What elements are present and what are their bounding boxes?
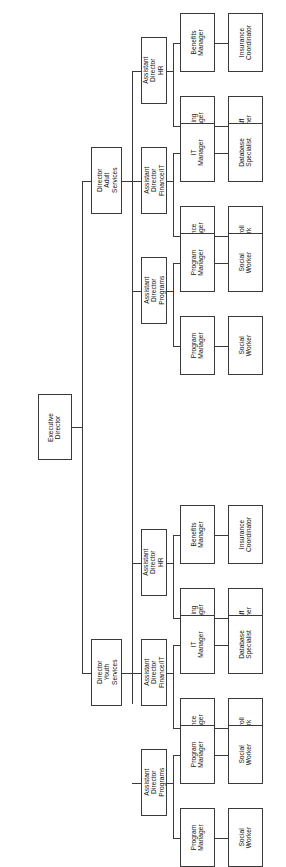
node-label: IT Manager	[190, 139, 205, 165]
node-youth-social-worker-2[interactable]: Social Worker	[228, 725, 263, 784]
connector-root-bus	[82, 181, 83, 674]
connector-adult-to-programs	[132, 291, 141, 292]
node-adult-assistant-director-programs[interactable]: Assistant Director Programs	[141, 257, 167, 324]
figure-caption	[271, 682, 285, 832]
node-label: Insurance Coordinator	[238, 25, 253, 60]
connector-youth-prog-to-pm2	[173, 755, 180, 756]
connector-youth-prog-bus	[173, 755, 174, 839]
connector-youth-it-to-dbspec	[215, 645, 228, 646]
connector-adult-pm1-to-sw1	[215, 346, 228, 347]
node-label: Director Adult Services	[95, 168, 117, 194]
node-youth-program-manager-1[interactable]: Program Manager	[180, 808, 215, 867]
connector-adult-to-finance	[132, 181, 141, 182]
node-label: Social Worker	[238, 335, 253, 356]
node-adult-social-worker-2[interactable]: Social Worker	[228, 233, 263, 292]
connector-youth-prog-to-pm1	[173, 838, 180, 839]
connector-youth-fin-to-it	[173, 645, 180, 646]
node-label: Program Manager	[190, 249, 205, 275]
node-adult-program-manager-1[interactable]: Program Manager	[180, 316, 215, 375]
node-director-youth-services[interactable]: Director Youth Services	[91, 639, 122, 706]
connector-youth-fin-to-finance	[173, 728, 180, 729]
node-label: Benefits Manager	[190, 521, 205, 547]
node-label: Social Worker	[238, 827, 253, 848]
node-youth-database-specialist[interactable]: Database Specialist	[228, 615, 263, 674]
node-adult-benefits-manager[interactable]: Benefits Manager	[180, 13, 215, 72]
connector-adult-prog-bus	[173, 263, 174, 347]
node-youth-program-manager-2[interactable]: Program Manager	[180, 725, 215, 784]
node-label: Social Worker	[238, 744, 253, 765]
node-label: Database Specialist	[238, 138, 253, 167]
connector-youth-finance-to-payroll	[215, 728, 228, 729]
node-youth-benefits-manager[interactable]: Benefits Manager	[180, 505, 215, 564]
connector-youth-training-to-trainer	[215, 618, 228, 619]
node-adult-program-manager-2[interactable]: Program Manager	[180, 233, 215, 292]
connector-youth-to-hr	[132, 563, 141, 564]
node-label: Assistant Director Programs	[143, 276, 165, 305]
node-label: Benefits Manager	[190, 29, 205, 55]
connector-adult-to-hr	[132, 71, 141, 72]
node-director-adult-services[interactable]: Director Adult Services	[91, 147, 122, 214]
connector-youth-to-finance	[132, 673, 141, 674]
connector-adult-fin-to-finance	[173, 236, 180, 237]
connector-adult-finance-to-payroll	[215, 236, 228, 237]
connector-adult-hr-to-benefits	[173, 43, 180, 44]
node-label: Executive Director	[48, 412, 63, 441]
connector-root-to-adult	[82, 181, 91, 182]
connector-adult-pm2-to-sw2	[215, 263, 228, 264]
connector-youth-benefits-to-insurance	[215, 535, 228, 536]
connector-adult-training-to-trainer	[215, 126, 228, 127]
node-label: Assistant Director Finance/IT	[143, 165, 165, 197]
connector-youth-hr-to-benefits	[173, 535, 180, 536]
node-label: Database Specialist	[238, 630, 253, 659]
node-adult-social-worker-1[interactable]: Social Worker	[228, 316, 263, 375]
node-label: Assistant Director HR	[143, 549, 165, 576]
connector-adult-prog-to-pm1	[173, 346, 180, 347]
connector-youth-to-programs	[132, 783, 141, 784]
node-youth-assistant-director-finance-it[interactable]: Assistant Director Finance/IT	[141, 639, 167, 706]
node-label: Program Manager	[190, 824, 205, 850]
node-adult-assistant-director-hr[interactable]: Assistant Director HR	[141, 37, 167, 104]
connector-adult-it-to-dbspec	[215, 153, 228, 154]
node-youth-assistant-director-hr[interactable]: Assistant Director HR	[141, 529, 167, 596]
connector-adult-prog-to-pm2	[173, 263, 180, 264]
node-label: Director Youth Services	[95, 660, 117, 686]
connector-adult-fin-bus	[173, 153, 174, 237]
connector-adult-bus	[132, 71, 133, 704]
node-youth-social-worker-1[interactable]: Social Worker	[228, 808, 263, 867]
node-youth-it-manager[interactable]: IT Manager	[180, 615, 215, 674]
connector-adult-benefits-to-insurance	[215, 43, 228, 44]
node-label: Assistant Director HR	[143, 57, 165, 84]
connector-youth-pm1-to-sw1	[215, 838, 228, 839]
node-adult-it-manager[interactable]: IT Manager	[180, 123, 215, 182]
connector-youth-hr-bus	[173, 535, 174, 619]
node-label: Assistant Director Programs	[143, 768, 165, 797]
node-adult-assistant-director-finance-it[interactable]: Assistant Director Finance/IT	[141, 147, 167, 214]
node-adult-insurance-coordinator[interactable]: Insurance Coordinator	[228, 13, 263, 72]
node-label: Social Worker	[238, 252, 253, 273]
node-adult-database-specialist[interactable]: Database Specialist	[228, 123, 263, 182]
node-youth-insurance-coordinator[interactable]: Insurance Coordinator	[228, 505, 263, 564]
node-label: Assistant Director Finance/IT	[143, 657, 165, 689]
connector-adult-hr-to-training	[173, 126, 180, 127]
connector-root-to-youth	[82, 673, 91, 674]
node-label: Program Manager	[190, 332, 205, 358]
connector-adult-fin-to-it	[173, 153, 180, 154]
connector-youth-hr-to-training	[173, 618, 180, 619]
node-label: Insurance Coordinator	[238, 517, 253, 552]
connector-youth-pm2-to-sw2	[215, 755, 228, 756]
node-label: Program Manager	[190, 741, 205, 767]
node-label: IT Manager	[190, 631, 205, 657]
connector-youth-fin-bus	[173, 645, 174, 729]
node-executive-director[interactable]: Executive Director	[38, 394, 72, 460]
node-youth-assistant-director-programs[interactable]: Assistant Director Programs	[141, 749, 167, 816]
connector-adult-hr-bus	[173, 43, 174, 127]
